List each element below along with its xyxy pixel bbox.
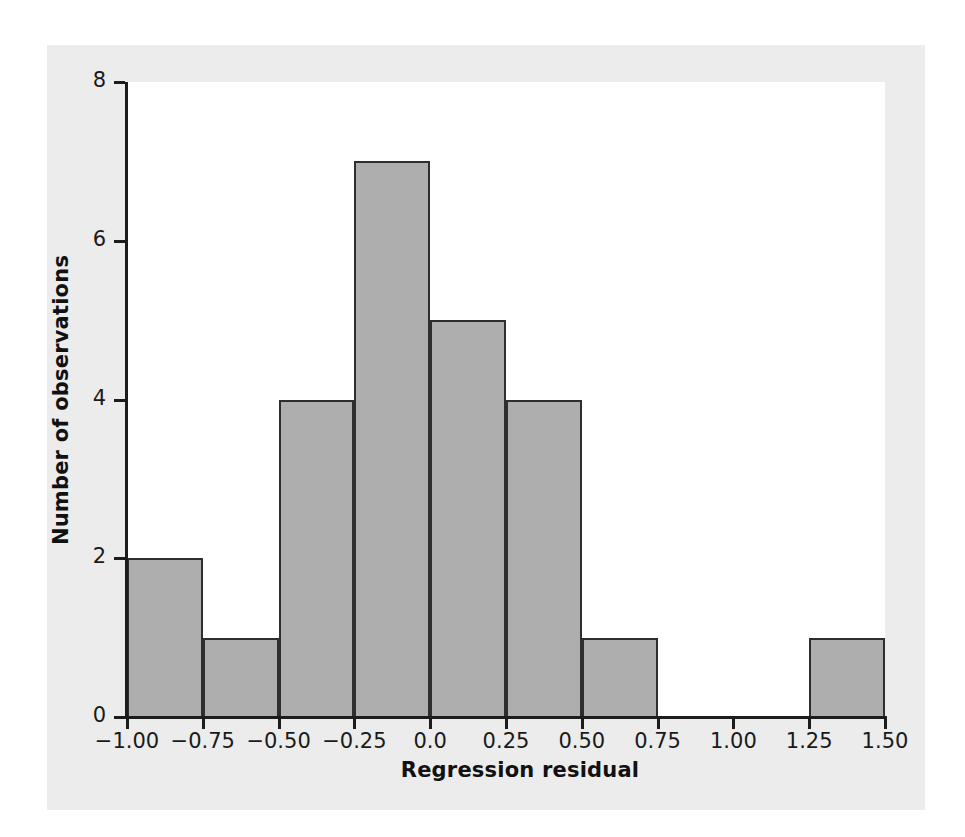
x-axis-tick: [429, 717, 432, 729]
y-axis-title: Number of observations: [49, 200, 73, 600]
y-axis-tick: [114, 399, 125, 402]
histogram-figure: 02468 −1.00−0.75−0.50−0.250.00.250.500.7…: [0, 0, 965, 837]
histogram-bar: [809, 638, 885, 719]
histogram-bar: [430, 320, 506, 719]
x-axis-tick-label: 1.50: [840, 729, 930, 753]
y-axis-tick: [114, 81, 125, 84]
y-axis-tick-label: 0: [66, 703, 106, 727]
x-axis-tick: [353, 717, 356, 729]
x-axis-tick: [505, 717, 508, 729]
histogram-bar: [127, 558, 203, 719]
x-axis-tick: [278, 717, 281, 729]
y-axis-tick: [114, 557, 125, 560]
x-axis-tick: [581, 717, 584, 729]
x-axis-tick: [808, 717, 811, 729]
y-axis-tick: [114, 716, 125, 719]
histogram-bar: [203, 638, 279, 719]
histogram-bar: [354, 161, 430, 719]
y-axis-tick-label: 8: [66, 68, 106, 92]
x-axis-tick: [202, 717, 205, 729]
histogram-bar: [582, 638, 658, 719]
x-axis-title: Regression residual: [0, 758, 965, 782]
x-axis-tick: [884, 717, 887, 729]
y-axis-line: [125, 82, 128, 719]
histogram-bar: [279, 400, 355, 720]
histogram-bar: [506, 400, 582, 720]
x-axis-tick: [126, 717, 129, 729]
x-axis-tick: [732, 717, 735, 729]
y-axis-tick: [114, 240, 125, 243]
x-axis-tick: [657, 717, 660, 729]
